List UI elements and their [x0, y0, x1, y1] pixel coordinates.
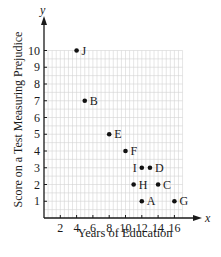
data-point-g	[172, 199, 177, 204]
y-axis-label: Score on a Test Measuring Prejudice	[11, 48, 26, 208]
x-axis-label: Years of Education	[60, 226, 190, 241]
point-label-j: J	[82, 44, 87, 58]
y-tick-label: 6	[34, 111, 40, 125]
data-point-i	[140, 165, 145, 170]
y-tick-label: 5	[34, 127, 40, 141]
point-label-a: A	[147, 194, 156, 208]
data-point-c	[156, 182, 161, 187]
y-tick-label: 2	[34, 178, 40, 192]
y-tick-label: 1	[34, 194, 40, 208]
data-point-b	[82, 98, 87, 103]
scatter-chart: yx24681012141612345678910ABCDEFGHIJ Scor…	[0, 0, 221, 257]
x-axis-arrow-icon	[193, 215, 202, 221]
data-point-e	[107, 132, 112, 137]
point-label-h: H	[139, 178, 148, 192]
x-axis-symbol: x	[204, 211, 211, 225]
y-axis-arrow-icon	[41, 16, 47, 25]
point-label-i: I	[133, 161, 137, 175]
point-label-f: F	[131, 144, 138, 158]
point-label-g: G	[179, 194, 188, 208]
y-tick-label: 10	[28, 44, 40, 58]
point-label-b: B	[90, 94, 98, 108]
data-point-d	[148, 165, 153, 170]
data-point-h	[131, 182, 136, 187]
plot-area: yx24681012141612345678910ABCDEFGHIJ	[0, 0, 221, 257]
y-tick-label: 4	[34, 144, 40, 158]
y-tick-label: 8	[34, 77, 40, 91]
y-tick-label: 9	[34, 60, 40, 74]
point-label-d: D	[155, 161, 164, 175]
point-label-c: C	[163, 178, 171, 192]
y-tick-label: 7	[34, 94, 40, 108]
data-point-a	[140, 199, 145, 204]
y-axis-symbol: y	[39, 3, 46, 17]
y-tick-label: 3	[34, 161, 40, 175]
data-point-f	[123, 149, 128, 154]
point-label-e: E	[114, 127, 121, 141]
data-point-j	[74, 48, 79, 53]
